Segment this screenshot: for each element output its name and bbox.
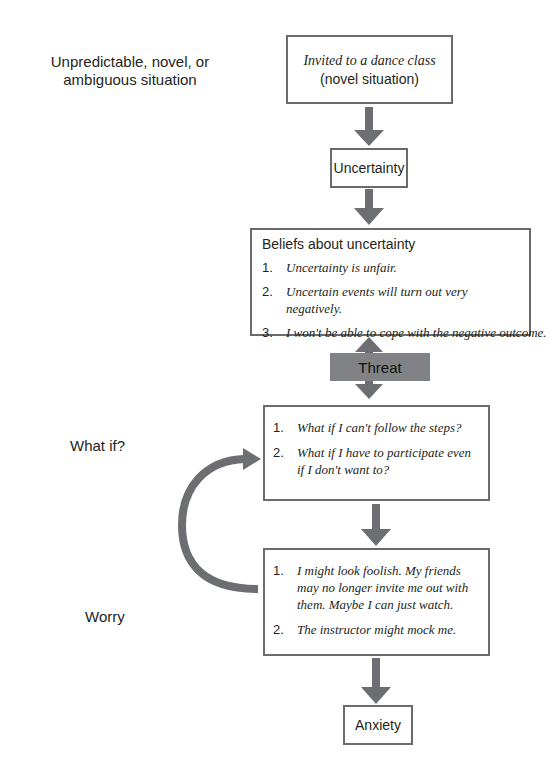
- what-if-box: 1.What if I can't follow the steps? 2.Wh…: [263, 405, 490, 501]
- connector-layer: [0, 0, 560, 773]
- situation-subtext: (novel situation): [320, 70, 419, 88]
- worry-item: 2.The instructor might mock me.: [273, 621, 480, 638]
- uncertainty-label: Uncertainty: [334, 160, 405, 176]
- feedback-loop-arrow-icon: [182, 448, 261, 589]
- beliefs-title: Beliefs about uncertainty: [262, 236, 521, 253]
- situation-text: Invited to a dance class: [303, 52, 435, 70]
- what-if-list: 1.What if I can't follow the steps? 2.Wh…: [273, 419, 480, 478]
- belief-item: 1.Uncertainty is unfair.: [262, 259, 521, 276]
- trigger-label: Unpredictable, novel, or ambiguous situa…: [20, 53, 240, 89]
- beliefs-box: Beliefs about uncertainty 1.Uncertainty …: [250, 228, 531, 336]
- anxiety-label: Anxiety: [355, 717, 401, 733]
- arrow-down-icon: [361, 504, 391, 546]
- anxiety-box: Anxiety: [343, 705, 413, 745]
- threat-bar: Threat: [330, 353, 430, 381]
- trigger-label-line2: ambiguous situation: [20, 71, 240, 89]
- belief-item: 3.I won't be able to cope with the negat…: [262, 324, 521, 341]
- arrow-down-icon: [361, 658, 391, 704]
- what-if-label: What if?: [70, 437, 140, 455]
- threat-label: Threat: [358, 359, 401, 376]
- worry-item: 1.I might look foolish. My friends may n…: [273, 562, 480, 613]
- trigger-label-line1: Unpredictable, novel, or: [20, 53, 240, 71]
- arrow-down-icon: [354, 189, 384, 225]
- uncertainty-box: Uncertainty: [330, 148, 408, 188]
- what-if-item: 2.What if I have to participate even if …: [273, 444, 480, 478]
- situation-box: Invited to a dance class (novel situatio…: [286, 35, 453, 104]
- what-if-item: 1.What if I can't follow the steps?: [273, 419, 480, 436]
- arrow-down-icon: [354, 107, 384, 146]
- beliefs-list: 1.Uncertainty is unfair. 2.Uncertain eve…: [262, 259, 521, 341]
- worry-box: 1.I might look foolish. My friends may n…: [263, 548, 490, 656]
- worry-label: Worry: [85, 608, 155, 626]
- belief-item: 2.Uncertain events will turn out very ne…: [262, 283, 521, 317]
- worry-list: 1.I might look foolish. My friends may n…: [273, 562, 480, 638]
